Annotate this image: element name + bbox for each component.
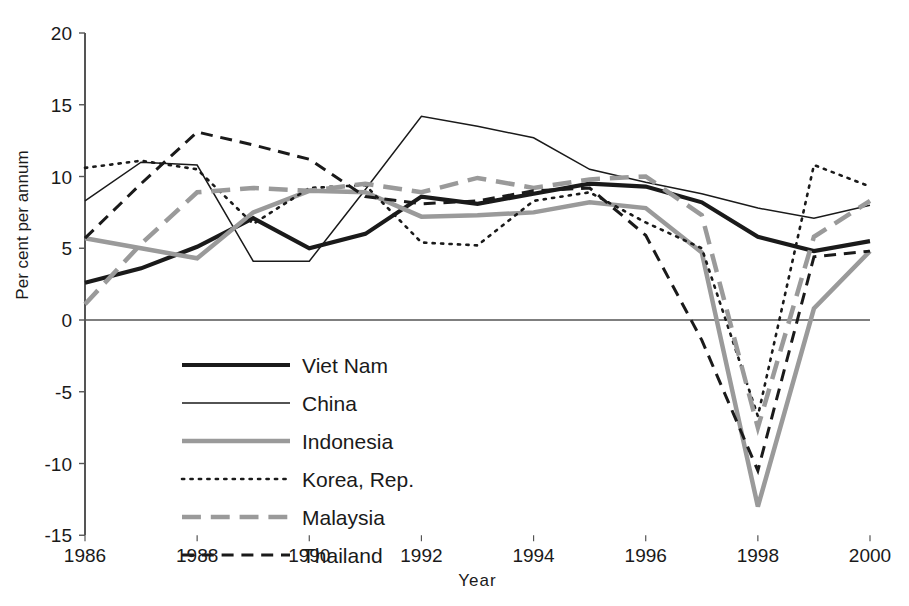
x-tick-label: 1992: [400, 545, 442, 566]
legend-label-china: China: [302, 392, 357, 415]
axes: [85, 33, 870, 535]
series-line-korea-rep: [85, 161, 870, 416]
x-tick-label: 1996: [625, 545, 667, 566]
y-tick-label: -15: [45, 525, 72, 546]
chart-legend: Viet NamChinaIndonesiaKorea, Rep.Malaysi…: [182, 354, 414, 567]
line-chart: 20151050-5-10-15 19861988199019921994199…: [0, 0, 909, 606]
legend-label-korea-rep: Korea, Rep.: [302, 468, 414, 491]
series-line-china: [85, 116, 870, 261]
legend-label-viet-nam: Viet Nam: [302, 354, 388, 377]
y-axis-title: Per cent per annum: [13, 150, 32, 299]
y-tick-label: 0: [61, 310, 72, 331]
x-axis-title: Year: [458, 571, 496, 590]
legend-label-indonesia: Indonesia: [302, 430, 393, 453]
x-axis-ticks: 19861988199019921994199619982000: [64, 535, 891, 566]
y-axis-ticks: 20151050-5-10-15: [45, 23, 85, 546]
y-tick-label: 20: [51, 23, 72, 44]
series-line-thailand: [85, 132, 870, 471]
y-tick-label: 15: [51, 95, 72, 116]
chart-svg: 20151050-5-10-15 19861988199019921994199…: [0, 0, 909, 606]
x-tick-label: 1998: [737, 545, 779, 566]
y-tick-label: -5: [55, 382, 72, 403]
x-tick-label: 2000: [849, 545, 891, 566]
y-tick-label: -10: [45, 454, 72, 475]
series-line-viet-nam: [85, 184, 870, 283]
series-line-indonesia: [85, 191, 870, 507]
legend-label-thailand: Thailand: [302, 544, 383, 567]
data-series-group: [85, 116, 870, 506]
y-tick-label: 10: [51, 167, 72, 188]
x-tick-label: 1994: [512, 545, 555, 566]
x-tick-label: 1986: [64, 545, 106, 566]
legend-label-malaysia: Malaysia: [302, 506, 385, 529]
y-tick-label: 5: [61, 238, 72, 259]
